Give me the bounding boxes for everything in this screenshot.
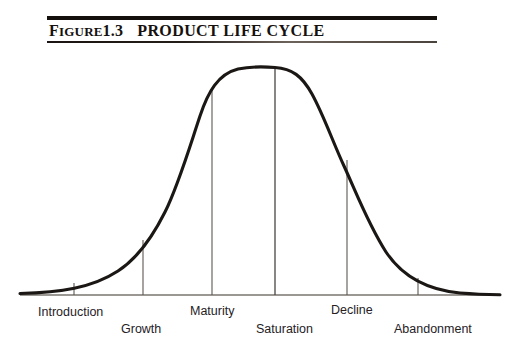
label-decline: Decline	[331, 303, 373, 317]
plot-area	[0, 0, 525, 355]
label-introduction: Introduction	[38, 305, 103, 319]
bell-curve-chart	[0, 0, 525, 355]
label-maturity: Maturity	[190, 304, 234, 318]
product-life-cycle-curve	[20, 67, 500, 295]
figure-product-life-cycle: FIGURE1.3PRODUCT LIFE CYCLE Introduction…	[0, 0, 525, 355]
label-saturation: Saturation	[256, 322, 313, 336]
label-abandonment: Abandonment	[394, 322, 472, 336]
label-growth: Growth	[121, 322, 161, 336]
